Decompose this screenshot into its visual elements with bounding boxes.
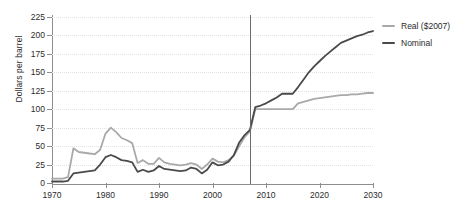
x-tick-mark <box>213 183 214 188</box>
y-axis-label: Dollars per barrel <box>14 14 24 124</box>
x-tick-mark <box>159 183 160 188</box>
legend-item-label: Nominal <box>401 38 432 48</box>
y-tick-label: 75 <box>36 123 45 133</box>
x-tick-label: 1990 <box>150 190 169 200</box>
legend-item[interactable]: Real ($2007) <box>382 17 454 34</box>
chart-figure: Dollars per barrel 025507510012515017520… <box>0 0 454 211</box>
data-series-lines <box>52 17 373 183</box>
plot-area: 0255075100125150175200225 19701980199020… <box>52 17 373 183</box>
y-tick-label: 25 <box>36 160 45 170</box>
x-tick-label: 1970 <box>43 190 62 200</box>
y-tick-label: 200 <box>31 30 45 40</box>
legend-item-label: Real ($2007) <box>401 21 450 31</box>
x-tick-mark <box>106 183 107 188</box>
legend-swatch-line-icon <box>382 42 395 44</box>
x-tick-mark <box>52 183 53 188</box>
legend-item[interactable]: Nominal <box>382 34 454 51</box>
x-tick-label: 1980 <box>96 190 115 200</box>
x-tick-mark <box>266 183 267 188</box>
y-tick-label: 150 <box>31 67 45 77</box>
x-tick-mark <box>320 183 321 188</box>
y-tick-label: 0 <box>40 178 45 188</box>
y-tick-label: 50 <box>36 141 45 151</box>
y-tick-label: 100 <box>31 104 45 114</box>
legend-swatch-line-icon <box>382 25 395 27</box>
x-tick-label: 2020 <box>310 190 329 200</box>
y-tick-label: 125 <box>31 86 45 96</box>
y-tick-label: 175 <box>31 49 45 59</box>
x-tick-label: 2030 <box>364 190 383 200</box>
x-tick-mark <box>373 183 374 188</box>
x-tick-label: 2010 <box>257 190 276 200</box>
forecast-divider-line <box>250 15 251 184</box>
chart-legend: Real ($2007)Nominal <box>382 17 454 51</box>
x-tick-label: 2000 <box>203 190 222 200</box>
y-tick-label: 225 <box>31 12 45 22</box>
